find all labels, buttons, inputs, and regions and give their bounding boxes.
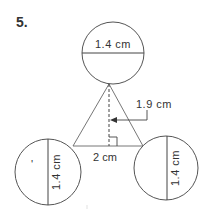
right-circle-diameter-label: 1.4 cm [169,150,181,186]
triangle: 1.9 cm 2 cm [73,84,172,163]
left-circle-diameter-label: 1.4 cm [50,154,62,190]
triangle-height-label: 1.9 cm [136,98,172,110]
stray-mark: ' [31,158,33,170]
left-circle: 1.4 cm ' [15,139,81,205]
right-angle-marker [109,137,117,146]
top-circle-diameter-label: 1.4 cm [95,38,131,50]
right-circle: 1.4 cm [134,136,198,200]
triangle-base-label: 2 cm [93,151,117,163]
problem-number: 5. [16,14,28,30]
top-circle: 1.4 cm [82,22,144,84]
height-callout-line [115,110,147,120]
geometry-figure: 5. 1.4 cm 1.9 cm 2 cm 1.4 cm ' 1.4 cm [0,0,212,220]
arrow-head-icon [110,117,117,123]
